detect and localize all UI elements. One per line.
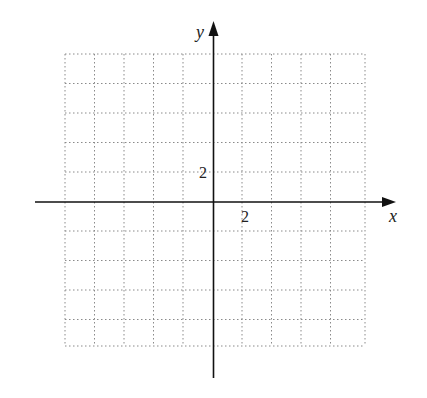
x-tick-label: 2 [241,208,249,225]
y-tick-label: 2 [199,164,207,181]
y-axis-arrow-icon [209,21,219,36]
y-axis-label: y [194,22,204,42]
coordinate-grid: x y 2 2 [0,0,427,398]
x-axis-label: x [388,206,397,226]
grid-lines [65,54,365,346]
